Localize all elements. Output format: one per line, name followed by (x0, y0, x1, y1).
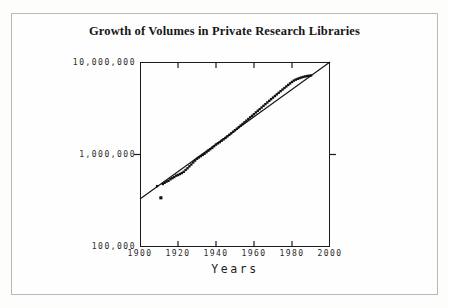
data-point-marker (310, 74, 312, 76)
x-tick-label-1900: 1900 (128, 249, 153, 258)
axis-tick-marks (134, 62, 336, 247)
data-point-marker (156, 185, 158, 187)
data-point-markers (156, 74, 312, 199)
chart-figure: Growth of Volumes in Private Research Li… (0, 0, 449, 308)
y-axis-tick-labels: 10,000,000 1,000,000 100,000 (50, 0, 136, 308)
x-tick-label-2000: 2000 (318, 249, 343, 258)
x-tick-label-1920: 1920 (166, 249, 191, 258)
low-outlier-point (159, 196, 162, 199)
y-tick-label-10000000: 10,000,000 (73, 58, 136, 67)
x-axis-title: Years (140, 262, 330, 276)
plot-area (140, 62, 330, 247)
x-tick-label-1960: 1960 (242, 249, 267, 258)
y-tick-label-1000000: 1,000,000 (79, 150, 136, 159)
x-axis-tick-labels: 1900 1920 1940 1960 1980 2000 (140, 249, 330, 263)
x-tick-label-1980: 1980 (280, 249, 305, 258)
x-tick-label-1940: 1940 (204, 249, 229, 258)
